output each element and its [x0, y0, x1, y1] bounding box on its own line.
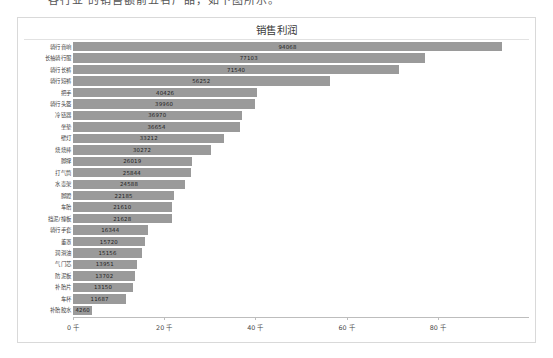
bar-track: 21610: [73, 201, 529, 212]
bar-track: 25844: [73, 167, 529, 178]
category-label: 脚蹬: [61, 192, 71, 200]
bar-row: 壁灯33212: [24, 133, 529, 144]
category-label: 车杯: [61, 295, 71, 303]
bar-value-label: 13951: [96, 261, 114, 267]
bar-value-label: 56252: [192, 78, 210, 84]
page-caption-strip: 各行业 的销售额前五名产品，如下图所示。: [0, 0, 553, 12]
page-caption: 各行业 的销售额前五名产品，如下图所示。: [48, 0, 281, 7]
bar-value-label: 21610: [113, 204, 131, 210]
bar-row: 董罩15720: [24, 236, 529, 247]
category-label: 骑行音响: [50, 43, 71, 51]
bar-row: 骑行短裤56252: [24, 75, 529, 86]
bar-track: 15720: [73, 236, 529, 247]
bar-row: 骑行音响94068: [24, 41, 529, 52]
bar-row: 防泥板13702: [24, 270, 529, 281]
bar-row: 车胎21610: [24, 201, 529, 212]
bar-value-label: 39960: [155, 101, 173, 107]
bar-row: 骑行头盔39960: [24, 98, 529, 109]
bar-value-label: 11687: [91, 296, 109, 302]
bar-value-label: 15156: [98, 250, 116, 256]
bar-row: 打气筒25844: [24, 167, 529, 178]
bar-track: 13150: [73, 282, 529, 293]
bar-track: 77103: [73, 52, 529, 63]
bar-track: 26019: [73, 156, 529, 167]
bar-value-label: 21628: [113, 216, 131, 222]
bar-track: 24588: [73, 179, 529, 190]
bar-value-label: 26019: [123, 158, 141, 164]
category-label: 冷链器: [55, 111, 71, 119]
x-axis-tick: [164, 317, 165, 320]
bar-row: 骑行长裤71540: [24, 64, 529, 75]
bar-row: 润滑油15156: [24, 247, 529, 258]
x-axis-tick: [73, 317, 74, 320]
bar-row: 坐垫36654: [24, 121, 529, 132]
category-label: 挡泥/撞板: [48, 215, 71, 223]
bar-value-label: 4260: [75, 307, 90, 313]
x-axis-tick-label: 60 千: [339, 323, 355, 332]
bar-value-label: 33212: [140, 135, 158, 141]
bar-track: 94068: [73, 41, 529, 52]
category-label: 坐垫: [61, 123, 71, 131]
bar-row: 补胎片13150: [24, 282, 529, 293]
category-label: 补胎片: [55, 283, 71, 291]
bar-track: 13951: [73, 259, 529, 270]
bar-track: 40426: [73, 87, 529, 98]
x-axis-tick-label: 0 千: [67, 323, 79, 332]
title-divider: [24, 39, 529, 40]
bar-rows: 骑行音响94068长袖骑行服77103骑行长裤71540骑行短裤56252把手4…: [24, 41, 529, 316]
bar-track: 22185: [73, 190, 529, 201]
bar-track: 39960: [73, 98, 529, 109]
x-axis-tick-label: 40 千: [247, 323, 263, 332]
category-label: 烧烧棒: [55, 146, 71, 154]
bar-row: 烧烧棒30272: [24, 144, 529, 155]
bar-track: 16344: [73, 224, 529, 235]
category-label: 水壶架: [55, 180, 71, 188]
category-label: 骑行长裤: [50, 66, 71, 74]
bar-value-label: 94068: [278, 44, 296, 50]
category-label: 气门芯: [55, 260, 71, 268]
category-label: 车胎: [61, 203, 71, 211]
bar-track: 30272: [73, 144, 529, 155]
bar-track: 56252: [73, 75, 529, 86]
bar-value-label: 25844: [123, 170, 141, 176]
bar-track: 71540: [73, 64, 529, 75]
x-axis-tick: [438, 317, 439, 320]
bar-row: 长袖骑行服77103: [24, 52, 529, 63]
bar-track: 21628: [73, 213, 529, 224]
category-label: 润滑油: [55, 249, 71, 257]
bar-value-label: 24588: [120, 181, 138, 187]
bar-row: 气门芯13951: [24, 259, 529, 270]
x-axis-tick: [255, 317, 256, 320]
x-axis-tick: [347, 317, 348, 320]
chart-title: 销售利润: [18, 22, 535, 37]
chart-panel: 销售利润 骑行音响94068长袖骑行服77103骑行长裤71540骑行短裤562…: [17, 17, 536, 343]
bar-track: 33212: [73, 133, 529, 144]
category-label: 脚撑: [61, 157, 71, 165]
bar-track: 36970: [73, 110, 529, 121]
bar-value-label: 15720: [100, 239, 118, 245]
bar-value-label: 36654: [147, 124, 165, 130]
bar-track: 15156: [73, 247, 529, 258]
category-label: 骑行短裤: [50, 77, 71, 85]
bar-value-label: 71540: [227, 67, 245, 73]
x-axis-line: [73, 317, 529, 318]
bar-row: 挡泥/撞板21628: [24, 213, 529, 224]
category-label: 把手: [61, 89, 71, 97]
category-label: 长袖骑行服: [45, 54, 71, 62]
bar-value-label: 36970: [148, 112, 166, 118]
category-label: 打气筒: [55, 169, 71, 177]
bar-track: 11687: [73, 293, 529, 304]
bar-value-label: 16344: [101, 227, 119, 233]
bar-value-label: 13150: [94, 284, 112, 290]
x-axis-tick-label: 20 千: [156, 323, 172, 332]
bar-row: 冷链器36970: [24, 110, 529, 121]
category-label: 壁灯: [61, 134, 71, 142]
category-label: 骑行头盔: [50, 100, 71, 108]
plot-area: 骑行音响94068长袖骑行服77103骑行长裤71540骑行短裤56252把手4…: [24, 41, 529, 339]
bar-row: 脚蹬22185: [24, 190, 529, 201]
bar-row: 骑行手套16344: [24, 224, 529, 235]
bar-row: 补胎胶水4260: [24, 305, 529, 316]
category-label: 防泥板: [55, 272, 71, 280]
x-axis-tick-label: 80 千: [430, 323, 446, 332]
bar-value-label: 30272: [133, 147, 151, 153]
